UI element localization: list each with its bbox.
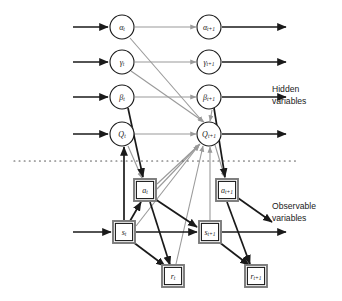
observable-node-s_t[interactable]: st xyxy=(113,221,135,243)
edge-r_t-to-Q_t1 xyxy=(176,146,203,264)
observable-node-layer: atat+1stst+1rtrt+1 xyxy=(113,179,267,287)
dbn-diagram: atat+1stst+1rtrt+1 αtαt+1γtγt+1βtβt+1QtQ… xyxy=(0,0,342,301)
legend-hidden-line1: Hidden xyxy=(272,84,299,94)
hidden-node-gamma_t[interactable]: γt xyxy=(110,50,134,74)
hidden-node-Q_t1[interactable]: Qt+1 xyxy=(197,122,221,146)
observable-node-r_t[interactable]: rt xyxy=(162,265,184,287)
observable-node-s_t1[interactable]: st+1 xyxy=(199,221,221,243)
legend-hidden-line2: variables xyxy=(272,96,306,106)
edge-a_t1-to-margin-diag xyxy=(238,198,272,222)
figure-canvas: atat+1stst+1rtrt+1 αtαt+1γtγt+1βtβt+1QtQ… xyxy=(0,0,342,301)
hidden-node-beta_t1[interactable]: βt+1 xyxy=(197,85,221,109)
edge-a_t-to-Q_t1 xyxy=(157,145,199,189)
legend-observable-line2: variables xyxy=(272,213,306,223)
edge-a_t-to-s_t1 xyxy=(155,199,197,227)
edge-s_t-to-a_t xyxy=(130,202,141,221)
edge-a_t-to-r_t xyxy=(150,202,170,265)
hidden-node-beta_t[interactable]: βt xyxy=(110,85,134,109)
observable-node-a_t1[interactable]: at+1 xyxy=(216,179,238,201)
legend-layer: HiddenvariablesObservablevariables xyxy=(272,84,316,223)
edge-a_t1-to-r_t1 xyxy=(227,202,250,264)
hidden-node-layer: αtαt+1γtγt+1βtβt+1QtQt+1 xyxy=(110,15,221,146)
hidden-node-alpha_t[interactable]: αt xyxy=(110,15,134,39)
edge-s_t-to-r_t xyxy=(133,242,165,266)
black-edge-layer xyxy=(73,27,286,266)
legend-observable-line1: Observable xyxy=(272,201,316,211)
hidden-node-gamma_t1[interactable]: γt+1 xyxy=(197,50,221,74)
hidden-node-Q_t[interactable]: Qt xyxy=(110,122,134,146)
edge-alpha_t-to-Q_t1 xyxy=(130,38,203,122)
edge-beta_t1-to-Q_t1 xyxy=(210,110,212,121)
observable-node-r_t1[interactable]: rt+1 xyxy=(245,265,267,287)
observable-node-a_t[interactable]: at xyxy=(134,179,156,201)
hidden-node-alpha_t1[interactable]: αt+1 xyxy=(197,15,221,39)
edge-s_t1-to-r_t1 xyxy=(219,242,249,265)
